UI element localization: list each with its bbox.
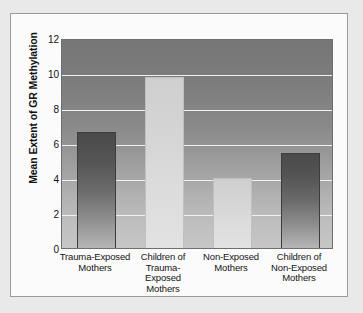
bar — [281, 153, 320, 248]
x-axis-tick-labels: Trauma-ExposedMothersChildren ofTrauma-E… — [61, 252, 333, 298]
y-tick-label: 12 — [41, 35, 59, 45]
bar — [77, 132, 116, 248]
plot-area — [61, 39, 333, 249]
y-tick-label: 6 — [41, 140, 59, 150]
x-tick-label-line: Mothers — [122, 284, 204, 295]
y-axis-title: Mean Extent of GR Methylation — [27, 18, 39, 198]
bar — [145, 77, 184, 249]
bars-layer — [62, 40, 332, 248]
x-tick-label: Children ofNon-ExposedMothers — [258, 252, 340, 284]
x-tick-label-line: Mothers — [258, 273, 340, 284]
x-tick-label-line: Exposed — [122, 273, 204, 284]
y-tick-label: 4 — [41, 175, 59, 185]
y-tick-label: 10 — [41, 70, 59, 80]
bar — [213, 178, 252, 248]
y-tick-label: 8 — [41, 105, 59, 115]
y-axis-tick-labels: 024681012 — [41, 39, 59, 249]
x-tick-label-line: Children of — [258, 252, 340, 263]
y-tick-label: 2 — [41, 210, 59, 220]
figure-card: Mean Extent of GR Methylation 024681012 … — [10, 13, 348, 297]
